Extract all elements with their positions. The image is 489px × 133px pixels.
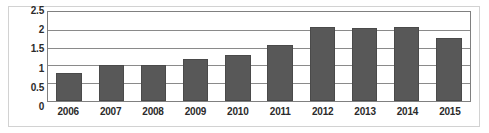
bar-slot [428,12,470,101]
bar-slot [386,12,428,101]
bar-2015[interactable] [436,38,461,101]
y-tick-label: 2 [12,25,44,35]
bar-2009[interactable] [183,59,208,101]
bar-2014[interactable] [394,27,419,101]
x-axis-tick-labels: 2006200720082009201020112012201320142015 [47,105,471,121]
x-tick-label: 2013 [344,105,386,121]
y-tick-label: 0 [12,102,44,112]
bar-slot [301,12,343,101]
x-tick-label: 2006 [47,105,89,121]
bar-slot [259,12,301,101]
bar-slot [132,12,174,101]
y-tick-label: 1 [12,64,44,74]
bar-2007[interactable] [99,65,124,101]
y-tick-label: 1.5 [12,44,44,54]
plot-area [47,11,471,102]
y-tick-label: 0.5 [12,83,44,93]
bar-2011[interactable] [267,45,292,101]
bar-series [48,12,470,101]
x-tick-label: 2008 [132,105,174,121]
bar-2010[interactable] [225,55,250,101]
x-tick-label: 2015 [429,105,471,121]
bar-chart-figure: 00.511.522.5 200620072008200920102011201… [0,0,489,133]
bar-slot [175,12,217,101]
x-tick-label: 2012 [301,105,343,121]
bar-slot [217,12,259,101]
bar-slot [48,12,90,101]
x-tick-label: 2007 [89,105,131,121]
x-tick-label: 2010 [217,105,259,121]
bar-2013[interactable] [352,28,377,101]
bar-slot [90,12,132,101]
bar-2012[interactable] [310,27,335,101]
bar-2006[interactable] [56,73,81,101]
x-tick-label: 2011 [259,105,301,121]
y-axis-tick-labels: 00.511.522.5 [12,8,44,104]
bar-2008[interactable] [141,65,166,101]
x-tick-label: 2009 [174,105,216,121]
bar-slot [343,12,385,101]
y-tick-label: 2.5 [12,6,44,16]
x-tick-label: 2014 [386,105,428,121]
